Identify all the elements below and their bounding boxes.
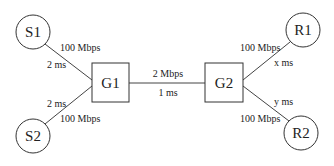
link-g2-r1-delay: x ms [274, 57, 293, 68]
node-r1: R1 [286, 13, 320, 47]
node-s2: S2 [16, 119, 50, 153]
node-g1-label: G1 [101, 75, 119, 91]
node-r1-label: R1 [294, 22, 312, 38]
link-g2-r1-bandwidth: 100 Mbps [240, 42, 280, 53]
link-g1-g2-bandwidth: 2 Mbps [153, 68, 183, 79]
node-g1: G1 [92, 63, 129, 102]
link-g2-r2-delay: y ms [274, 96, 293, 107]
node-s1: S1 [16, 15, 50, 49]
link-s1-g1-bandwidth: 100 Mbps [60, 42, 100, 53]
network-topology-diagram: S1 S2 G1 G2 R1 R2 100 Mbps 2 ms 2 ms 100… [0, 0, 334, 166]
link-s1-g1-delay: 2 ms [47, 59, 66, 70]
link-s2-g1-bandwidth: 100 Mbps [60, 113, 100, 124]
node-s1-label: S1 [25, 24, 41, 40]
link-g1-g2-delay: 1 ms [158, 87, 177, 98]
link-s2-g1-delay: 2 ms [47, 98, 66, 109]
node-s2-label: S2 [25, 128, 41, 144]
link-g2-r2-bandwidth: 100 Mbps [240, 113, 280, 124]
node-r2: R2 [284, 116, 318, 150]
node-g2: G2 [205, 63, 243, 102]
node-g2-label: G2 [215, 75, 233, 91]
node-r2-label: R2 [292, 125, 310, 141]
